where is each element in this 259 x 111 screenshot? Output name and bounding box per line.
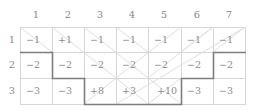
grid-cell: +1 xyxy=(52,27,84,53)
grid-cell: −2 xyxy=(181,52,213,78)
grid-cell: −3 xyxy=(181,78,213,104)
grid-cell: −2 xyxy=(52,52,84,78)
grid-cell: −1 xyxy=(148,27,180,53)
column-header-1: 1 xyxy=(20,9,52,21)
grid-cell: −1 xyxy=(116,27,148,53)
column-header-4: 4 xyxy=(116,9,148,21)
column-header-2: 2 xyxy=(52,9,84,21)
grid-cell: −2 xyxy=(20,52,52,78)
grid-cell: −2 xyxy=(213,52,245,78)
grid-cell: −1 xyxy=(20,27,52,53)
row-header-1: 1 xyxy=(6,34,18,46)
grid-cell: −3 xyxy=(20,78,52,104)
grid-cell: −1 xyxy=(84,27,116,53)
grid-cell: −2 xyxy=(84,52,116,78)
row-header-3: 3 xyxy=(6,85,18,97)
grid-cell: −3 xyxy=(213,78,245,104)
column-header-7: 7 xyxy=(213,9,245,21)
grid-cell: −3 xyxy=(52,78,84,104)
grid-cell: −2 xyxy=(116,52,148,78)
grid-cell: +3 xyxy=(116,78,148,104)
column-header-5: 5 xyxy=(148,9,180,21)
column-header-3: 3 xyxy=(84,9,116,21)
grid-cell: −2 xyxy=(148,52,180,78)
column-header-6: 6 xyxy=(181,9,213,21)
grid-cell: −1 xyxy=(181,27,213,53)
grid-cell: −1 xyxy=(213,27,245,53)
row-header-2: 2 xyxy=(6,59,18,71)
grid-cell: +10 xyxy=(148,78,180,104)
grid-cell: +8 xyxy=(84,78,116,104)
